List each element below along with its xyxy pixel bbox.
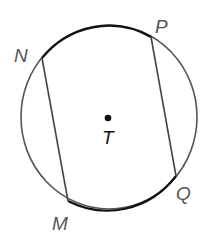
- label-P: P: [155, 16, 168, 37]
- chord-NM: [42, 58, 68, 201]
- chord-PQ: [151, 37, 176, 176]
- arc-NP: [42, 26, 151, 58]
- circle-diagram: N P Q M T: [0, 0, 210, 244]
- label-Q: Q: [176, 183, 191, 204]
- label-M: M: [52, 213, 68, 234]
- center-point-T: [105, 115, 112, 122]
- label-N: N: [14, 45, 28, 66]
- label-T: T: [102, 127, 115, 148]
